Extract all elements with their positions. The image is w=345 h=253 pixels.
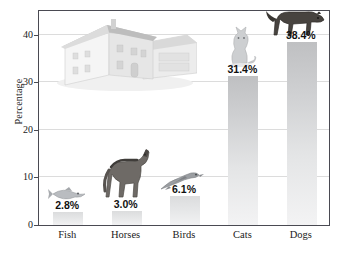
bar-value-label: 6.1% (154, 183, 214, 195)
bar-value-label: 38.4% (271, 29, 331, 41)
bar-value-label: 3.0% (96, 198, 156, 210)
y-tick-label: 0 (0, 219, 33, 230)
bar-value-label: 31.4% (212, 63, 272, 75)
x-tick-label: Dogs (266, 229, 336, 240)
bar[interactable] (170, 196, 200, 225)
y-tick-label: 30 (0, 76, 33, 87)
bar[interactable] (53, 212, 83, 225)
bar[interactable] (228, 76, 258, 225)
bar-chart: Percentage 010203040 (0, 0, 345, 253)
bar[interactable] (112, 211, 142, 225)
y-tick-label: 10 (0, 171, 33, 182)
bar-value-label: 2.8% (37, 199, 97, 211)
horse-illustration (97, 147, 159, 205)
house-illustration (47, 13, 197, 93)
y-tick-label: 40 (0, 29, 33, 40)
gridline (39, 129, 329, 130)
bar[interactable] (287, 42, 317, 225)
y-tick-label: 20 (0, 124, 33, 135)
